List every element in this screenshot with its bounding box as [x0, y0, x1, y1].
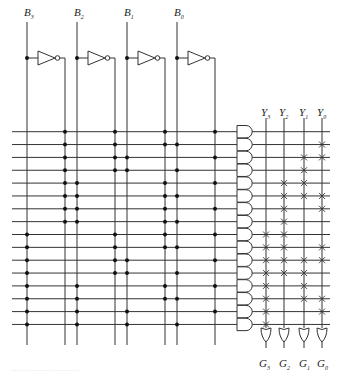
and-connection-dot	[75, 297, 79, 301]
and-connection-dot	[213, 258, 217, 262]
and-connection-dot	[213, 233, 217, 237]
and-connection-dot	[163, 143, 167, 147]
and-connection-dot	[163, 245, 167, 249]
inverter-bubble	[55, 56, 60, 61]
and-connection-dot	[213, 181, 217, 185]
or-gate-y2	[279, 328, 289, 342]
and-gate	[237, 254, 252, 266]
or-gate-y3	[261, 328, 271, 342]
and-connection-dot	[163, 181, 167, 185]
and-connection-dot	[175, 194, 179, 198]
and-gate	[237, 280, 252, 292]
and-connection-dot	[175, 297, 179, 301]
and-connection-dot	[175, 322, 179, 326]
and-gate	[237, 138, 252, 150]
and-gate	[237, 228, 252, 240]
and-connection-dot	[63, 181, 67, 185]
and-connection-dot	[113, 143, 117, 147]
inverter-bubble	[205, 56, 210, 61]
and-connection-dot	[213, 310, 217, 314]
pla-circuit-diagram: B3 B2 B1 B0 Y3 Y2 Y1 Y0 G3 G2 G1 G0	[0, 0, 350, 380]
or-column-label-y1: Y1	[299, 106, 308, 120]
and-connection-dot	[113, 130, 117, 134]
and-connection-dot	[25, 245, 29, 249]
and-connection-dot	[63, 194, 67, 198]
or-column-label-y3: Y3	[261, 106, 270, 120]
input-label-b1: B1	[124, 6, 134, 20]
and-connection-dot	[175, 168, 179, 172]
and-connection-dot	[113, 168, 117, 172]
and-connection-dot	[213, 207, 217, 211]
and-gate	[237, 293, 252, 305]
and-connection-dot	[163, 220, 167, 224]
output-label-g1: G1	[299, 357, 310, 371]
and-connection-dot	[125, 271, 129, 275]
and-connection-dot	[25, 322, 29, 326]
and-gate	[237, 151, 252, 163]
or-column-label-y2: Y2	[279, 106, 288, 120]
junction-dot	[25, 56, 29, 60]
complement-line-b0	[210, 58, 215, 345]
and-connection-dot	[75, 181, 79, 185]
inverter-gate	[38, 51, 55, 65]
caption-text: ................................	[10, 366, 79, 372]
output-label-g0: G0	[317, 357, 328, 371]
and-gate	[237, 241, 252, 253]
and-connection-dot	[125, 155, 129, 159]
and-connection-dot	[63, 155, 67, 159]
and-connection-dot	[175, 143, 179, 147]
and-gate	[237, 318, 252, 330]
and-gate	[237, 215, 252, 227]
junction-dot	[125, 56, 129, 60]
complement-line-b1	[160, 58, 165, 345]
and-connection-dot	[213, 284, 217, 288]
and-connection-dot	[175, 220, 179, 224]
and-connection-dot	[25, 233, 29, 237]
and-connection-dot	[163, 284, 167, 288]
input-label-b3: B3	[24, 6, 34, 20]
input-label-b0: B0	[174, 6, 184, 20]
or-column-label-y0: Y0	[317, 106, 326, 120]
and-connection-dot	[213, 155, 217, 159]
inverter-gate	[138, 51, 155, 65]
and-connection-dot	[63, 207, 67, 211]
and-connection-dot	[25, 258, 29, 262]
junction-dot	[175, 56, 179, 60]
and-connection-dot	[25, 271, 29, 275]
and-gate	[237, 164, 252, 176]
output-label-g3: G3	[259, 357, 270, 371]
and-connection-dot	[175, 245, 179, 249]
input-label-b2: B2	[74, 6, 84, 20]
and-connection-dot	[113, 233, 117, 237]
and-gate	[237, 305, 252, 317]
and-gate	[237, 126, 252, 138]
and-connection-dot	[25, 284, 29, 288]
and-gate	[237, 203, 252, 215]
inverter-bubble	[105, 56, 110, 61]
or-gate-y1	[299, 328, 309, 342]
and-connection-dot	[163, 130, 167, 134]
and-gate	[237, 177, 252, 189]
complement-line-b3	[60, 58, 65, 345]
and-connection-dot	[163, 233, 167, 237]
and-connection-dot	[63, 168, 67, 172]
and-connection-dot	[113, 245, 117, 249]
complement-line-b2	[110, 58, 115, 345]
and-connection-dot	[163, 207, 167, 211]
and-connection-dot	[175, 271, 179, 275]
and-connection-dot	[63, 220, 67, 224]
inverter-bubble	[155, 56, 160, 61]
and-connection-dot	[163, 194, 167, 198]
and-connection-dot	[25, 310, 29, 314]
junction-dot	[75, 56, 79, 60]
and-gate	[237, 267, 252, 279]
and-connection-dot	[75, 194, 79, 198]
and-connection-dot	[63, 143, 67, 147]
output-label-g2: G2	[279, 357, 290, 371]
and-connection-dot	[163, 297, 167, 301]
and-connection-dot	[125, 310, 129, 314]
and-connection-dot	[75, 220, 79, 224]
and-connection-dot	[75, 322, 79, 326]
and-connection-dot	[125, 168, 129, 172]
and-connection-dot	[113, 155, 117, 159]
